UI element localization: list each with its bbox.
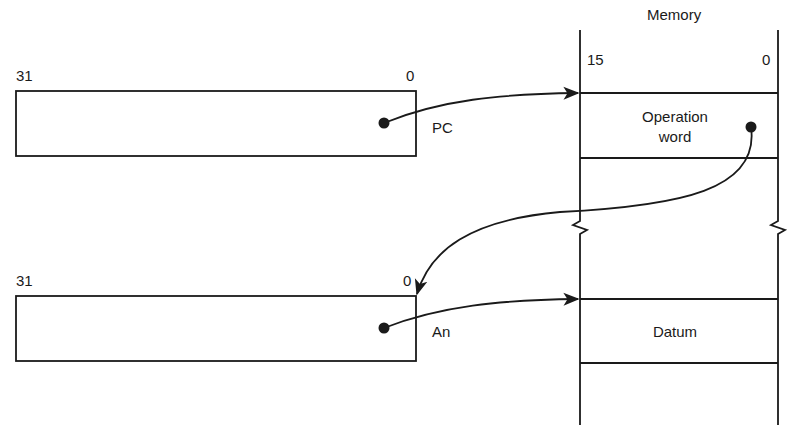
memory-left-edge — [573, 30, 587, 425]
pc-pointer-arrow — [384, 93, 578, 123]
memory-cell-datum: Datum — [610, 324, 740, 339]
pc-dot — [379, 118, 390, 129]
an-register-box — [16, 296, 416, 361]
pc-bit-high: 31 — [16, 68, 33, 83]
an-bit-high: 31 — [16, 273, 33, 288]
opword-dot — [746, 122, 757, 133]
memory-right-edge — [771, 30, 785, 425]
an-dot — [379, 323, 390, 334]
memory-bit-low: 0 — [762, 52, 770, 67]
pc-register-box — [16, 91, 416, 156]
operation-word-line2: word — [610, 127, 740, 147]
operation-word-line1: Operation — [610, 107, 740, 127]
an-pointer-arrow — [384, 299, 578, 328]
opword-to-an-arrow — [417, 127, 752, 294]
pc-register-label: PC — [432, 120, 453, 135]
an-bit-low: 0 — [403, 273, 411, 288]
memory-title: Memory — [647, 7, 701, 22]
memory-cell-operation-word: Operation word — [610, 107, 740, 147]
addressing-diagram — [0, 0, 795, 433]
memory-bit-high: 15 — [587, 52, 604, 67]
pc-bit-low: 0 — [406, 68, 414, 83]
an-register-label: An — [432, 324, 450, 339]
